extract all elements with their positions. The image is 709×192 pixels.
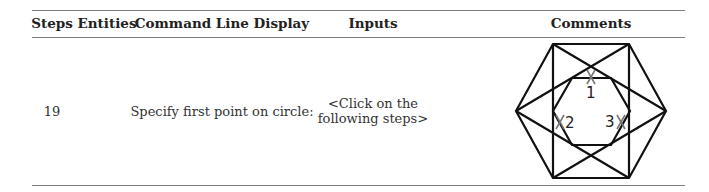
construction-lines [516, 44, 666, 178]
outer-hexagon [516, 44, 666, 178]
marker-label-2: 2 [565, 114, 575, 132]
marker-label-3: 3 [605, 113, 615, 131]
marker-2-x-icon [556, 115, 564, 129]
comments-diagram: 1 2 3 [0, 0, 709, 192]
marker-label-1: 1 [586, 84, 596, 102]
